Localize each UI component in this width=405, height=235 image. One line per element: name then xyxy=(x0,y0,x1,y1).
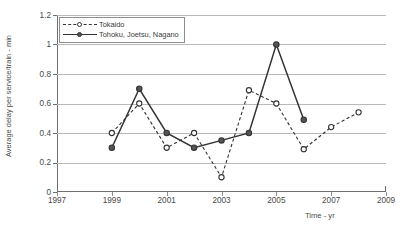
legend-swatch-dashed-open-circle xyxy=(63,20,97,30)
legend-item-tohoku-joetsu-nagano: Tohoku, Joetsu, Nagano xyxy=(63,30,179,40)
data-point xyxy=(109,145,114,150)
legend-item-tokaido: Tokaido xyxy=(63,20,179,30)
data-point xyxy=(164,145,169,150)
data-point xyxy=(219,175,224,180)
data-point xyxy=(191,145,196,150)
chart-legend: Tokaido Tohoku, Joetsu, Nagano xyxy=(59,17,185,43)
series-tohoku-joetsu-nagano xyxy=(109,42,306,151)
legend-label-tohoku-joetsu-nagano: Tohoku, Joetsu, Nagano xyxy=(97,30,179,40)
data-point xyxy=(329,125,334,130)
data-point xyxy=(301,147,306,152)
data-point xyxy=(246,130,251,135)
legend-label-tokaido: Tokaido xyxy=(97,20,124,30)
series-line xyxy=(112,45,304,148)
data-point xyxy=(191,130,196,135)
data-point xyxy=(356,110,361,115)
data-point xyxy=(109,130,114,135)
data-point xyxy=(164,130,169,135)
x-axis-title: Time - yr xyxy=(305,211,335,220)
data-point xyxy=(137,86,142,91)
data-point xyxy=(246,88,251,93)
data-point xyxy=(274,101,279,106)
data-point xyxy=(301,117,306,122)
data-point xyxy=(137,101,142,106)
chart-figure: Average delay per service/train - min 00… xyxy=(0,0,405,235)
data-point xyxy=(219,138,224,143)
legend-swatch-solid-filled-circle xyxy=(63,30,97,40)
data-point xyxy=(274,42,279,47)
